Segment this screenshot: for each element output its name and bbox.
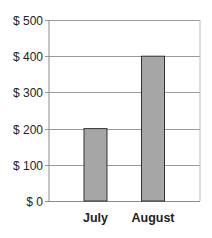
y-tick-label: $ 400 [13,50,43,64]
x-category-label: August [131,211,175,225]
y-axis-ticks: $ 0$ 100$ 200$ 300$ 400$ 500 [13,14,43,209]
gridlines [45,21,200,202]
bars [84,56,165,201]
y-tick-label: $ 100 [13,159,43,173]
x-category-label: July [83,211,108,225]
bar-july [84,129,107,201]
y-tick-label: $ 200 [13,123,43,137]
bar-chart: $ 0$ 100$ 200$ 300$ 400$ 500 JulyAugust [0,0,212,238]
y-tick-label: $ 0 [26,195,43,209]
bar-august [142,56,165,201]
y-tick-label: $ 300 [13,86,43,100]
x-axis-labels: JulyAugust [83,211,175,225]
y-tick-label: $ 500 [13,14,43,28]
